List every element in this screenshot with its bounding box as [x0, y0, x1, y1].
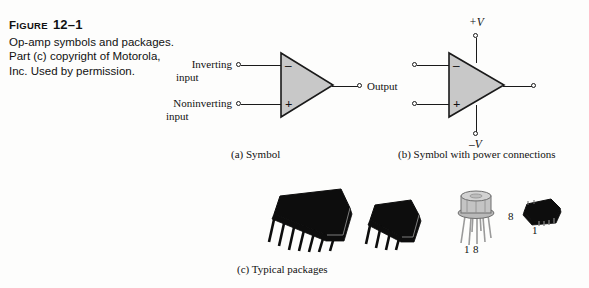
inverting-sign-a: –: [285, 58, 292, 71]
soic-pin-label-1: 1: [532, 224, 538, 236]
positive-supply-label: +V: [469, 16, 484, 28]
to-can-pin-label-1: 1: [464, 243, 470, 255]
negative-supply-wire: [476, 105, 477, 132]
figure-label-word: FIGURE: [9, 20, 48, 31]
inverting-input-label-line1: Inverting: [176, 58, 232, 71]
dip-14-pin-package: [264, 188, 356, 250]
inverting-input-wire: [241, 65, 281, 66]
figure-caption-block: FIGURE12–1 Op-amp symbols and packages. …: [9, 18, 184, 78]
output-label: Output: [367, 80, 398, 93]
diagram-b-subcaption: (b) Symbol with power connections: [398, 148, 556, 160]
to-can-8-pin-package: [452, 186, 502, 246]
diagram-a-subcaption: (a) Symbol: [231, 148, 280, 160]
caption-line-3: Inc. Used by permission.: [9, 64, 184, 79]
figure-page: FIGURE12–1 Op-amp symbols and packages. …: [0, 0, 589, 288]
figure-heading: FIGURE12–1: [9, 18, 184, 34]
caption-line-2: Part (c) copyright of Motorola,: [9, 49, 184, 64]
output-wire-b: [503, 86, 532, 87]
negative-supply-terminal: [473, 131, 478, 136]
inverting-input-label-line2: input: [176, 71, 232, 84]
noninverting-input-wire: [241, 104, 281, 105]
noninverting-input-label-line1: Noninverting: [166, 97, 232, 110]
output-terminal-b: [531, 83, 536, 88]
figure-number: 12–1: [53, 17, 83, 32]
diagram-c-subcaption: (c) Typical packages: [237, 263, 328, 275]
noninverting-sign-b: +: [453, 97, 460, 110]
output-terminal: [357, 83, 362, 88]
to-can-pin-label-8: 8: [473, 243, 479, 255]
noninverting-input-wire-b: [417, 104, 450, 105]
soic-8-pin-package: [519, 198, 565, 230]
noninverting-sign-a: +: [285, 97, 292, 110]
dip-8-pin-package: [362, 199, 424, 251]
soic-pin-label-8: 8: [508, 210, 514, 222]
caption-line-1: Op-amp symbols and packages.: [9, 35, 184, 50]
output-wire: [332, 86, 358, 87]
noninverting-input-label-line2: input: [166, 110, 232, 123]
noninverting-input-label: Noninverting input: [166, 97, 232, 122]
inverting-input-wire-b: [417, 65, 450, 66]
inverting-sign-b: –: [453, 58, 460, 71]
inverting-input-label: Inverting input: [176, 58, 232, 83]
